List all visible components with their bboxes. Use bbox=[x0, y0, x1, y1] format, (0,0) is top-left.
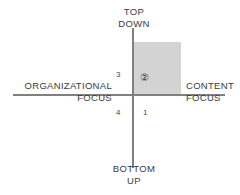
highlighted-quadrant-region bbox=[134, 42, 181, 94]
axis-label-top-down: TOP DOWN bbox=[107, 6, 161, 29]
quadrant-label-1: 1 bbox=[143, 108, 147, 117]
quadrant-label-2-circled: ② bbox=[140, 72, 149, 83]
axis-label-bottom-up: BOTTOM UP bbox=[105, 163, 163, 186]
quadrant-diagram: TOP DOWN BOTTOM UP ORGANIZATIONAL FOCUS … bbox=[0, 0, 240, 195]
axis-label-organizational-focus: ORGANIZATIONAL FOCUS bbox=[8, 80, 112, 103]
axis-label-content-focus: CONTENT FOCUS bbox=[186, 80, 236, 103]
vertical-axis bbox=[132, 28, 134, 168]
quadrant-label-3: 3 bbox=[116, 70, 120, 79]
quadrant-label-4: 4 bbox=[116, 108, 120, 117]
